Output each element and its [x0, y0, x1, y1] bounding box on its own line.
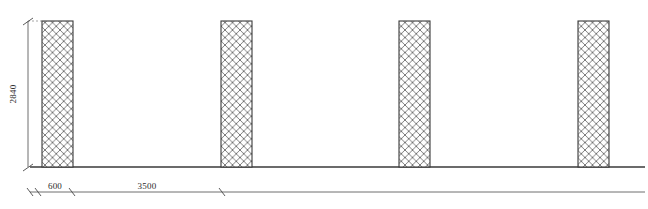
- drawing-canvas: 2840 600 3500: [0, 0, 648, 209]
- vertical-dimension-label: 2840: [8, 84, 18, 103]
- column-3-fill: [399, 21, 430, 167]
- column-4: [578, 21, 609, 167]
- column-2-fill: [221, 21, 252, 167]
- column-2: [221, 21, 252, 167]
- structural-elevation-drawing: 2840 600 3500: [0, 0, 648, 209]
- column-1: [42, 21, 73, 167]
- column-4-fill: [578, 21, 609, 167]
- dimension-label-600: 600: [48, 181, 62, 191]
- column-1-fill: [42, 21, 73, 167]
- dimension-label-3500: 3500: [138, 181, 157, 191]
- drawing-background: [0, 0, 648, 209]
- column-3: [399, 21, 430, 167]
